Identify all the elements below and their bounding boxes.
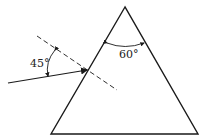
- apex-angle-label: 60°: [119, 48, 139, 61]
- prism-triangle: [51, 7, 198, 134]
- prism-diagram: 60° 45°: [0, 0, 205, 140]
- apex-angle-arc: [107, 43, 144, 47]
- incidence-angle-label: 45°: [30, 57, 50, 70]
